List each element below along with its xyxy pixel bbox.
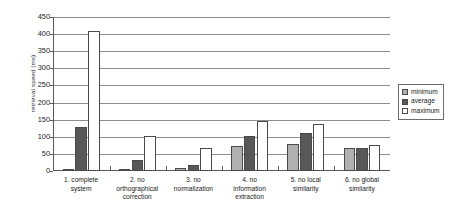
x-axis-category-label: 5. no localsimilarity [278,176,334,202]
y-axis-tick-mark [50,85,53,86]
bar-minimum [287,144,299,171]
bar-slot [287,17,299,171]
y-axis-tick-label: 200 [24,99,50,106]
bar-group [334,17,390,171]
bar-average [244,136,256,171]
bar-slot [75,17,87,171]
bar-minimum [63,169,75,171]
bar-average [300,133,312,171]
bar-average [188,165,200,171]
y-axis-tick-mark [50,154,53,155]
bar-minimum [119,169,131,171]
bar-group [53,17,109,171]
bar-group [109,17,165,171]
legend-label: maximum [411,108,440,115]
x-axis-label-line: 6. no global [335,176,389,185]
bar-group [165,17,221,171]
bar-chart: retrieval speed (ms) 4504003503002502001… [0,0,462,219]
x-axis-label-line: 2. no [110,176,164,185]
bar-maximum [88,31,100,171]
y-axis-tick-mark [50,17,53,18]
bar-slot [188,17,200,171]
y-axis-tick-label: 300 [24,64,50,71]
x-axis-label-line: correction [110,193,164,202]
bar-groups [53,17,390,171]
y-axis-tick-mark [50,137,53,138]
bar-minimum [344,148,356,171]
x-axis-label-line: 4. no [223,176,277,185]
bar-slot [344,17,356,171]
bar-maximum [200,148,212,171]
bar-slot [132,17,144,171]
y-axis-tick-label: 250 [24,81,50,88]
x-axis-category-label: 4. noinformationextraction [222,176,278,202]
bar-slot [244,17,256,171]
bar-slot [313,17,325,171]
x-axis-category-label: 2. noorthographicalcorrection [109,176,165,202]
bar-slot [175,17,187,171]
bar-slot [231,17,243,171]
y-axis-tick-mark [50,171,53,172]
bar-maximum [313,124,325,171]
legend-label: minimum [411,89,438,96]
x-axis-label-line: similarity [279,185,333,194]
y-axis-tick-label: 100 [24,133,50,140]
bar-minimum [231,146,243,171]
x-axis-category-label: 6. no globalsimilarity [334,176,390,202]
y-axis-tick-label: 50 [24,150,50,157]
x-axis-label-line: information [223,185,277,194]
y-axis-tick-mark [50,51,53,52]
chart-legend: minimumaveragemaximum [398,84,444,120]
bar-average [75,127,87,171]
y-axis-tick-mark [50,120,53,121]
bar-slot [119,17,131,171]
y-axis-tick-labels: 450400350300250200150100500 [20,17,50,171]
x-axis-category-labels: 1. completesystem2. noorthographicalcorr… [53,176,390,202]
bar-average [356,148,368,171]
bar-slot [257,17,269,171]
x-axis-category-label: 1. completesystem [53,176,109,202]
bar-group [278,17,334,171]
y-axis-tick-mark [50,68,53,69]
bar-average [132,160,144,171]
bar-group [222,17,278,171]
x-axis-label-line: extraction [223,193,277,202]
x-axis-label-line: 1. complete [54,176,108,185]
y-axis-tick-label: 0 [24,167,50,174]
legend-item-maximum: maximum [402,107,440,117]
bar-maximum [257,121,269,171]
y-axis-tick-label: 400 [24,30,50,37]
y-axis-tick-mark [50,34,53,35]
legend-label: average [411,98,435,105]
bar-slot [88,17,100,171]
legend-swatch-average [402,99,408,105]
bar-slot [300,17,312,171]
y-axis-tick-label: 350 [24,47,50,54]
x-axis-label-line: normalization [166,185,220,194]
bar-slot [369,17,381,171]
bar-maximum [369,145,381,171]
bar-slot [63,17,75,171]
bar-maximum [144,136,156,171]
x-axis-category-label: 3. nonormalization [165,176,221,202]
bar-slot [200,17,212,171]
x-axis-label-line: orthographical [110,185,164,194]
x-axis-label-line: system [54,185,108,194]
bar-minimum [175,168,187,171]
bar-slot [356,17,368,171]
legend-item-minimum: minimum [402,88,440,98]
legend-swatch-minimum [402,89,408,95]
y-axis-tick-mark [50,103,53,104]
y-axis-tick-label: 150 [24,116,50,123]
legend-item-average: average [402,97,440,107]
bar-slot [144,17,156,171]
y-axis-tick-label: 450 [24,13,50,20]
x-axis-label-line: 3. no [166,176,220,185]
x-axis-label-line: 5. no local [279,176,333,185]
x-axis-label-line: similarity [335,185,389,194]
legend-swatch-maximum [402,108,408,114]
